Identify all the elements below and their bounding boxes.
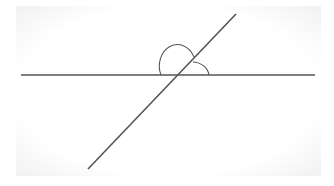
obtuse-angle-arc [159,45,194,75]
acute-angle-arc [193,62,209,75]
angle-diagram [0,0,334,186]
transversal-line [88,14,236,169]
